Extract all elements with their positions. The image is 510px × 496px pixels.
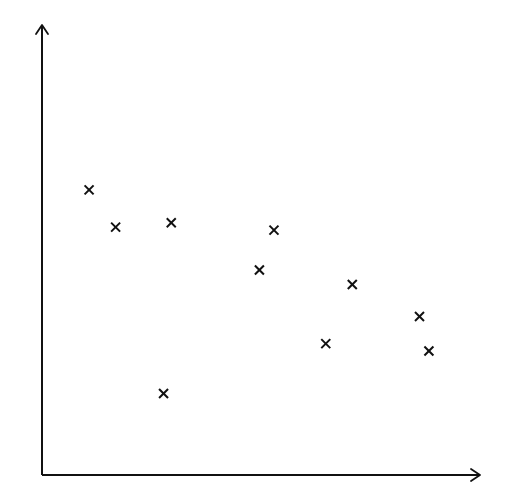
- x-marker-icon: [159, 389, 168, 398]
- x-marker-icon: [424, 347, 433, 356]
- x-marker-icon: [348, 280, 357, 289]
- x-marker-icon: [85, 185, 94, 194]
- axes: [36, 25, 480, 481]
- x-marker-icon: [321, 339, 330, 348]
- x-marker-icon: [415, 312, 424, 321]
- x-marker-icon: [167, 218, 176, 227]
- scatter-chart: [0, 0, 510, 496]
- x-marker-icon: [255, 266, 264, 275]
- data-markers: [85, 185, 434, 398]
- x-marker-icon: [111, 223, 120, 232]
- x-marker-icon: [269, 226, 278, 235]
